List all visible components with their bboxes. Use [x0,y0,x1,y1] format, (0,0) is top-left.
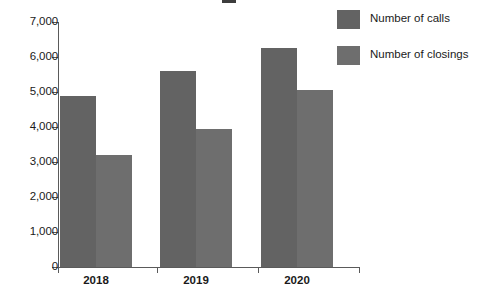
x-tick-mark [359,267,360,273]
legend-label-closings: Number of closings [370,49,468,61]
bar-2019-closings[interactable] [196,129,232,267]
y-tick-label: 5,000 [12,86,58,98]
bar-2018-closings[interactable] [96,155,132,267]
y-tick-label: 7,000 [12,16,58,28]
bar-2018-calls[interactable] [60,96,96,268]
y-tick-label: 4,000 [12,121,58,133]
y-tick-label: 3,000 [12,156,58,168]
legend: Number of calls Number of closings [337,8,485,80]
x-tick-label-2018: 2018 [50,275,142,287]
bar-2020-closings[interactable] [297,90,333,267]
x-tick-label-2020: 2020 [251,275,343,287]
cropped-title-fragment [222,0,236,3]
x-tick-mark [258,267,259,273]
x-tick-mark [58,267,59,273]
legend-label-calls: Number of calls [370,13,450,25]
y-tick-label: 6,000 [12,51,58,63]
bar-2019-calls[interactable] [160,71,196,267]
y-tick-label: 2,000 [12,191,58,203]
legend-swatch-calls [337,10,360,29]
y-axis-line [58,22,59,267]
bar-2020-calls[interactable] [261,48,297,267]
legend-item-calls[interactable]: Number of calls [337,8,485,30]
x-tick-label-2019: 2019 [150,275,242,287]
legend-swatch-closings [337,46,360,65]
y-tick-label: 1,000 [12,226,58,238]
bar-chart: 01,0002,0003,0004,0005,0006,0007,000 201… [0,0,488,296]
legend-item-closings[interactable]: Number of closings [337,44,485,66]
y-tick-label: 0 [12,261,58,273]
x-axis-line [58,267,360,268]
x-tick-mark [157,267,158,273]
